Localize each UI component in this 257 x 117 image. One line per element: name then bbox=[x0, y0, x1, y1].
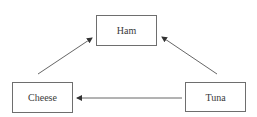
diagram-canvas: Ham Cheese Tuna bbox=[0, 0, 257, 117]
node-cheese: Cheese bbox=[12, 82, 73, 113]
edge-tuna-to-ham bbox=[162, 37, 217, 74]
node-tuna: Tuna bbox=[185, 82, 246, 112]
node-tuna-label: Tuna bbox=[205, 92, 225, 103]
node-ham: Ham bbox=[96, 15, 157, 46]
node-ham-label: Ham bbox=[117, 25, 136, 36]
node-cheese-label: Cheese bbox=[28, 92, 57, 103]
edge-cheese-to-ham bbox=[38, 38, 92, 74]
